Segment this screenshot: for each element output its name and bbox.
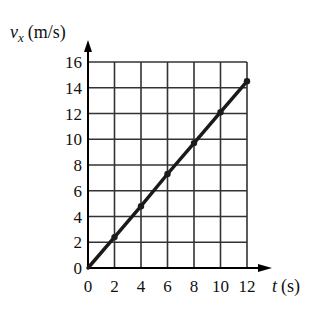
y-axis-arrow-icon [84,40,92,52]
y-tick-label: 10 [65,130,82,149]
y-tick-label: 0 [74,259,83,278]
y-tick-label: 8 [74,156,83,175]
velocity-time-chart: 0246810121416 024681012 vx(m/s) t(s) [0,0,322,310]
x-tick-label: 10 [212,277,229,296]
data-point-marker [191,140,197,146]
y-tick-label: 4 [74,208,83,227]
data-point-marker [138,203,144,209]
data-point-marker [244,78,250,84]
x-axis-label: t(s) [272,276,300,297]
data-point-marker [217,109,223,115]
x-tick-labels: 024681012 [84,277,256,296]
x-tick-label: 4 [137,277,146,296]
x-tick-label: 12 [239,277,256,296]
y-tick-label: 6 [74,182,83,201]
data-point-marker [111,234,117,240]
x-tick-label: 8 [190,277,199,296]
x-axis-arrow-icon [258,264,272,272]
data-series [88,78,250,268]
y-axis-label: vx(m/s) [10,22,66,45]
x-tick-label: 0 [84,277,93,296]
y-tick-label: 2 [74,233,83,252]
data-point-marker [164,171,170,177]
y-tick-label: 14 [65,79,83,98]
x-tick-label: 6 [163,277,172,296]
x-tick-label: 2 [110,277,119,296]
y-tick-label: 12 [65,105,82,124]
y-tick-label: 16 [65,53,82,72]
y-tick-labels: 0246810121416 [65,53,83,278]
